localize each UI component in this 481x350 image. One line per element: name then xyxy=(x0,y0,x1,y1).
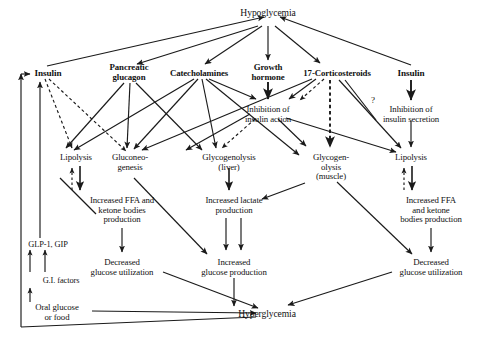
edge-insulin-right-to-hypoglycemia xyxy=(280,17,411,65)
edge-cortico-to-inhibition-solid xyxy=(289,79,316,99)
edge-insulin-left-to-lipolysis-dashed xyxy=(45,79,72,148)
edge-hypo-to-corticosteroids xyxy=(275,26,320,63)
node-lipolysis-right: Lipolysis xyxy=(386,153,436,163)
node-inhibition-of-insulin-secretion: Inhibition of insulin secretion xyxy=(373,105,449,124)
edge-decreased-util-right-to-hyperglycemia xyxy=(288,272,392,305)
edge-decreased-util-left-to-hyperglycemia xyxy=(163,272,258,308)
node-pancreatic-glucagon: Pancreatic glucagon xyxy=(98,63,160,82)
node-decreased-utilization-right: Decreased glucose utilization xyxy=(386,258,476,277)
node-hypoglycemia: Hypoglycemia xyxy=(228,8,308,18)
diagram-canvas: Hypoglycemia Insulin Pancreatic glucagon… xyxy=(0,0,481,350)
node-decreased-utilization-left: Decreased glucose utilization xyxy=(78,258,166,277)
node-gluconeogenesis: Gluconeo- genesis xyxy=(104,153,156,172)
edge-glucagon-to-lipolysis xyxy=(66,83,124,148)
edge-hypo-to-catecholamines xyxy=(205,26,262,64)
node-insulin-left: Insulin xyxy=(27,69,69,79)
node-increased-ffa-left: Increased FFA and ketone bodies producti… xyxy=(74,196,170,225)
diagram-edges-layer xyxy=(0,0,481,350)
node-17-corticosteroids: 17-Corticosteroids xyxy=(293,69,381,79)
node-increased-lactate: Increased lactate production xyxy=(192,196,276,215)
node-insulin-right: Insulin xyxy=(390,69,432,79)
node-inhibition-of-insulin-action: Inhibition of insulin action xyxy=(234,105,302,124)
node-glycogenolysis-liver: Glycogenolysis (liver) xyxy=(191,153,267,172)
node-increased-glucose-production: Increased glucose production xyxy=(188,258,280,277)
edge-insulin-left-to-gluconeo-dashed xyxy=(49,79,126,151)
node-growth-hormone: Growth hormone xyxy=(244,63,292,82)
node-glp1-gip: GLP-1, GIP xyxy=(18,240,78,249)
node-increased-ffa-right: Increased FFA and ketone bodies producti… xyxy=(385,196,477,225)
node-lipolysis-left: Lipolysis xyxy=(51,153,101,163)
edge-glucagon-to-gluconeogenesis xyxy=(127,83,130,148)
node-glycogenolysis-muscle: Glycogen- olysis (muscle) xyxy=(304,153,358,182)
node-gi-factors: G.I. factors xyxy=(33,276,89,285)
edge-glucagon-to-glycogenolysis-liver xyxy=(136,83,202,150)
edge-cat-to-inhibition-action xyxy=(209,79,256,99)
question-mark-annotation: ? xyxy=(368,96,378,106)
node-catecholamines: Catecholamines xyxy=(160,69,238,79)
edge-cat-to-lipolysis-left xyxy=(74,79,194,150)
node-hyperglycemia: Hyperglycemia xyxy=(227,309,307,319)
node-oral-glucose-or-food: Oral glucose or food xyxy=(24,303,90,322)
